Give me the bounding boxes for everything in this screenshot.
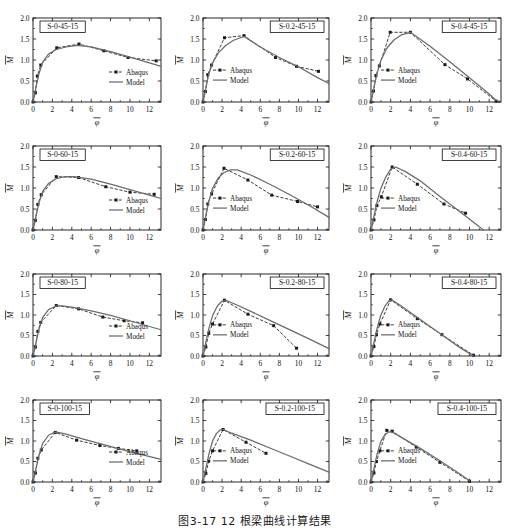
svg-text:0.5: 0.5 (190, 457, 200, 466)
svg-text:0: 0 (31, 359, 35, 368)
svg-text:4: 4 (409, 233, 413, 242)
y-axis-label: M (344, 183, 353, 192)
svg-text:4: 4 (239, 233, 243, 242)
svg-text:12: 12 (314, 359, 322, 368)
chart-title: S-0.2-60-15 (279, 150, 316, 159)
svg-text:0.0: 0.0 (358, 226, 368, 235)
svg-text:0: 0 (369, 359, 373, 368)
svg-text:6: 6 (428, 359, 432, 368)
svg-text:0.0: 0.0 (20, 478, 30, 487)
legend-label-model: Model (230, 457, 249, 465)
svg-text:1.0: 1.0 (358, 311, 368, 320)
svg-text:2.0: 2.0 (358, 142, 368, 151)
svg-text:1.5: 1.5 (20, 163, 30, 172)
x-axis-label: φ (95, 118, 100, 127)
svg-text:1.5: 1.5 (190, 416, 200, 425)
svg-text:10: 10 (466, 485, 474, 494)
y-axis-label: M (6, 436, 15, 445)
legend-label-model: Model (230, 331, 249, 339)
chart-title: S-0.2-45-15 (279, 22, 316, 31)
svg-text:0: 0 (201, 359, 205, 368)
svg-text:1.0: 1.0 (190, 437, 200, 446)
svg-text:6: 6 (89, 233, 93, 242)
chart-title: S-0-80-15 (47, 278, 78, 287)
chart-cell: 0246810120.00.51.01.52.0MφS-0-45-15Abaqu… (0, 4, 170, 132)
svg-text:0.5: 0.5 (190, 331, 200, 340)
svg-text:0.0: 0.0 (20, 98, 30, 107)
svg-text:2.0: 2.0 (20, 270, 30, 279)
svg-text:8: 8 (278, 485, 282, 494)
chart-legend: AbaqusModel (109, 449, 148, 467)
chart-cell: 0246810120.00.51.01.52.0MφS-0.2-80-15Aba… (170, 260, 338, 386)
svg-text:2.0: 2.0 (20, 396, 30, 405)
svg-text:2.0: 2.0 (190, 14, 200, 23)
svg-text:1.0: 1.0 (190, 56, 200, 65)
legend-label-model: Model (398, 331, 417, 339)
y-axis-label: M (176, 55, 185, 64)
legend-label-abaqus: Abaqus (126, 323, 148, 331)
legend-label-abaqus: Abaqus (230, 195, 252, 203)
svg-text:12: 12 (485, 485, 493, 494)
chart-title: S-0.4-80-15 (451, 278, 488, 287)
svg-text:12: 12 (146, 359, 154, 368)
legend-label-model: Model (126, 459, 145, 467)
svg-text:1.5: 1.5 (20, 416, 30, 425)
svg-text:10: 10 (466, 359, 474, 368)
svg-text:0: 0 (31, 485, 35, 494)
svg-text:2: 2 (220, 105, 224, 114)
svg-text:12: 12 (146, 485, 154, 494)
svg-text:0: 0 (201, 233, 205, 242)
x-axis-label: φ (434, 498, 439, 507)
svg-text:1.0: 1.0 (20, 184, 30, 193)
svg-text:8: 8 (109, 233, 113, 242)
svg-text:0.5: 0.5 (358, 331, 368, 340)
svg-text:2: 2 (220, 485, 224, 494)
svg-text:4: 4 (70, 233, 74, 242)
chart-title: S-0.4-100-15 (447, 404, 487, 413)
svg-text:6: 6 (428, 233, 432, 242)
chart-S-0.4-100-15: 0246810120.00.51.01.52.0MφS-0.4-100-15Ab… (338, 386, 510, 512)
x-axis-label: φ (95, 372, 100, 381)
chart-cell: 0246810120.00.51.01.52.0MφS-0.2-45-15Aba… (170, 4, 338, 132)
svg-text:2: 2 (220, 359, 224, 368)
legend-label-model: Model (126, 333, 145, 341)
svg-text:4: 4 (70, 359, 74, 368)
x-axis-label: φ (264, 372, 269, 381)
chart-S-0-45-15: 0246810120.00.51.01.52.0MφS-0-45-15Abaqu… (0, 4, 170, 132)
chart-S-0.2-100-15: 0246810120.00.51.01.52.0MφS-0.2-100-15Ab… (170, 386, 338, 512)
svg-text:10: 10 (466, 233, 474, 242)
svg-text:0.0: 0.0 (190, 226, 200, 235)
svg-text:0.0: 0.0 (190, 478, 200, 487)
svg-text:0.5: 0.5 (20, 331, 30, 340)
chart-legend: AbaqusModel (381, 447, 420, 465)
chart-legend: AbaqusModel (213, 447, 252, 465)
svg-text:10: 10 (295, 105, 303, 114)
svg-text:2.0: 2.0 (190, 270, 200, 279)
chart-legend: AbaqusModel (213, 67, 252, 85)
svg-text:2: 2 (389, 485, 393, 494)
svg-text:2: 2 (389, 233, 393, 242)
x-axis-label: φ (95, 246, 100, 255)
legend-label-model: Model (126, 207, 145, 215)
x-axis-label: φ (264, 246, 269, 255)
chart-cell: 0246810120.00.51.01.52.0MφS-0.4-45-15Aba… (338, 4, 510, 132)
svg-text:8: 8 (448, 105, 452, 114)
x-axis-label: φ (434, 246, 439, 255)
chart-legend: AbaqusModel (213, 321, 252, 339)
chart-cell: 0246810120.00.51.01.52.0MφS-0.4-100-15Ab… (338, 386, 510, 512)
x-axis-label: φ (434, 372, 439, 381)
svg-text:0.5: 0.5 (20, 77, 30, 86)
svg-text:12: 12 (485, 359, 493, 368)
legend-label-abaqus: Abaqus (230, 447, 252, 455)
svg-text:0: 0 (31, 105, 35, 114)
svg-text:8: 8 (278, 105, 282, 114)
svg-text:0.0: 0.0 (358, 478, 368, 487)
chart-cell: 0246810120.00.51.01.52.0MφS-0.2-60-15Aba… (170, 132, 338, 260)
svg-text:6: 6 (258, 485, 262, 494)
svg-text:4: 4 (70, 485, 74, 494)
chart-cell: 0246810120.00.51.01.52.0MφS-0.4-80-15Aba… (338, 260, 510, 386)
svg-text:10: 10 (126, 105, 134, 114)
figure-caption: 图3-17 12 根梁曲线计算结果 (0, 512, 510, 528)
chart-S-0-60-15: 0246810120.00.51.01.52.0MφS-0-60-15Abaqu… (0, 132, 170, 260)
svg-text:0.5: 0.5 (20, 457, 30, 466)
